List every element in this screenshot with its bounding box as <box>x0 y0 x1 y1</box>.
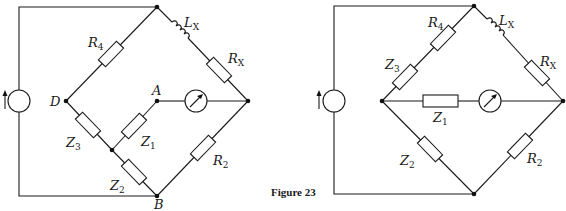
left-circuit: R4 LX RX R2 Z3 Z1 Z2 <box>3 5 251 211</box>
current-source-r <box>317 90 346 112</box>
label-R2-r: R2 <box>526 151 543 168</box>
label-Z2: Z2 <box>109 178 125 195</box>
label-Z3: Z3 <box>65 135 81 152</box>
label-Z1: Z1 <box>140 134 156 151</box>
figure-caption: Figure 23 <box>271 186 316 198</box>
node-top <box>155 5 160 10</box>
label-Lx-r: LX <box>498 13 515 30</box>
node-A <box>155 99 160 104</box>
node-mid <box>110 148 115 153</box>
label-Z2-r: Z2 <box>399 153 415 170</box>
impedance-Z3 <box>75 112 100 138</box>
node-B <box>155 194 160 199</box>
label-R4-r: R4 <box>427 15 444 32</box>
label-R4: R4 <box>87 35 104 52</box>
figure-23: R4 LX RX R2 Z3 Z1 Z2 <box>0 0 566 211</box>
wire-top-Lx-r <box>474 6 487 19</box>
node-left-r <box>380 99 385 104</box>
impedance-Z1-r <box>423 95 458 107</box>
wire-top-Lx <box>157 7 172 22</box>
node-label-D: D <box>49 94 61 109</box>
node-right <box>246 99 251 104</box>
current-source <box>3 90 31 112</box>
label-R2: R2 <box>212 153 229 170</box>
impedance-Z2 <box>121 159 146 185</box>
label-Z3-r: Z3 <box>384 57 400 74</box>
galvanometer-r <box>479 90 501 112</box>
galvanometer <box>185 90 207 112</box>
label-Rx-r: RX <box>539 54 557 71</box>
label-Lx: LX <box>183 15 200 32</box>
label-Z1-r: Z1 <box>432 110 448 127</box>
right-circuit: R4 Z3 LX RX Z1 Z2 <box>317 4 566 197</box>
source-circle-icon <box>8 90 30 112</box>
label-Rx: RX <box>227 51 245 68</box>
node-label-A: A <box>151 83 161 98</box>
impedance-Z2-r <box>417 136 442 162</box>
node-D <box>64 99 69 104</box>
node-top-r <box>472 4 477 9</box>
source-circle-icon <box>323 90 345 112</box>
node-bottom-r <box>472 192 477 197</box>
resistor-R2 <box>190 135 215 161</box>
node-right-r <box>561 99 566 104</box>
node-label-B: B <box>153 197 164 211</box>
